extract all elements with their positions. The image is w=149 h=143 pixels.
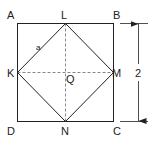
label-side-a: a — [36, 43, 41, 52]
label-center-q: Q — [66, 73, 75, 85]
label-vertex-c: C — [113, 125, 121, 137]
label-vertex-d: D — [7, 125, 15, 137]
label-dimension: 2 — [135, 67, 141, 79]
label-midpoint-m: M — [112, 67, 121, 79]
geometry-diagram: A B C D L M N K Q a 2 — [0, 0, 149, 143]
label-vertex-a: A — [7, 9, 15, 21]
label-midpoint-k: K — [7, 67, 15, 79]
label-vertex-b: B — [113, 9, 120, 21]
label-midpoint-l: L — [61, 9, 67, 21]
label-midpoint-n: N — [61, 125, 69, 137]
